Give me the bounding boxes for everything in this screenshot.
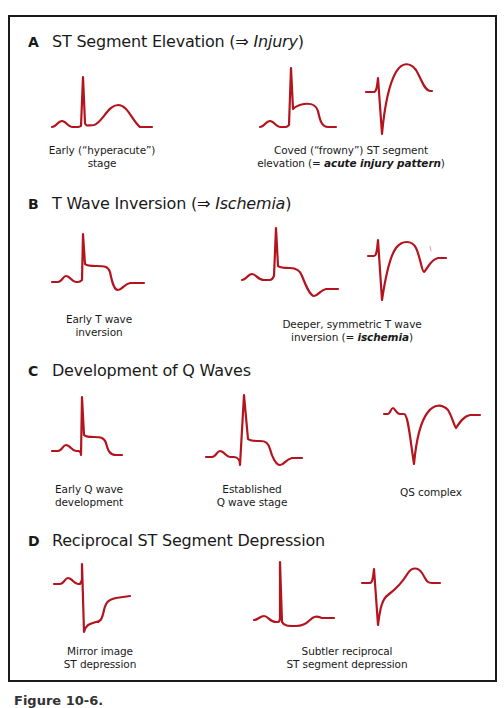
label-established-q-wave: Established Q wave stage <box>202 483 302 508</box>
ecg-early-q-wave <box>50 395 126 465</box>
label-subtle-st-depression: Subtler reciprocal ST segment depression <box>272 645 422 670</box>
section-letter: C <box>28 361 52 381</box>
section-b-title: BT Wave Inversion (⇒ Ischemia) <box>28 194 291 214</box>
ecg-qs-complex <box>382 398 482 468</box>
section-letter: D <box>28 531 52 551</box>
section-c-title: CDevelopment of Q Waves <box>28 361 251 381</box>
figure-caption: Figure 10-6. <box>14 693 103 708</box>
section-letter: B <box>28 194 52 214</box>
ecg-early-t-wave-inversion <box>50 232 146 298</box>
ecg-deeper-t-wave-inversion-qs <box>366 232 451 304</box>
label-qs-complex: QS complex <box>386 486 476 499</box>
label-hyperacute: Early (“hyperacute”) stage <box>42 144 162 169</box>
ecg-subtle-st-depression <box>252 560 336 630</box>
label-early-t-wave-inversion: Early T wave inversion <box>44 313 154 338</box>
ecg-mirror-st-depression <box>52 562 132 634</box>
section-letter: A <box>28 32 52 52</box>
ecg-established-q-wave <box>204 393 304 471</box>
section-a-title: AST Segment Elevation (⇒ Injury) <box>28 32 304 52</box>
ecg-hyperacute-st-elevation <box>50 75 155 135</box>
ecg-subtle-st-depression-inverted <box>360 563 442 629</box>
section-d-title: DReciprocal ST Segment Depression <box>28 531 325 551</box>
label-deeper-t-wave-inversion: Deeper, symmetric T wave inversion (= is… <box>262 318 442 343</box>
label-coved-st-elevation: Coved (“frowny”) ST segment elevation (=… <box>240 144 462 169</box>
label-early-q-wave: Early Q wave development <box>44 483 134 508</box>
label-mirror-st-depression: Mirror image ST depression <box>50 645 150 670</box>
ecg-deeper-t-wave-inversion <box>240 226 340 302</box>
ecg-coved-st-elevation-qs <box>364 60 434 136</box>
ecg-coved-st-elevation <box>258 65 338 135</box>
